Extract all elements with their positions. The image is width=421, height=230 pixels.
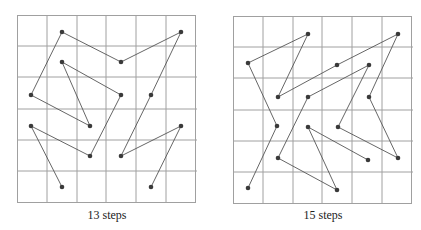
grid-path-15 (233, 16, 413, 205)
diagram-15-steps (233, 16, 413, 205)
caption-15-steps: 15 steps (263, 208, 383, 223)
caption-13-steps: 13 steps (47, 208, 167, 223)
diagram-13-steps (17, 15, 197, 203)
grid-path-13 (17, 15, 197, 203)
